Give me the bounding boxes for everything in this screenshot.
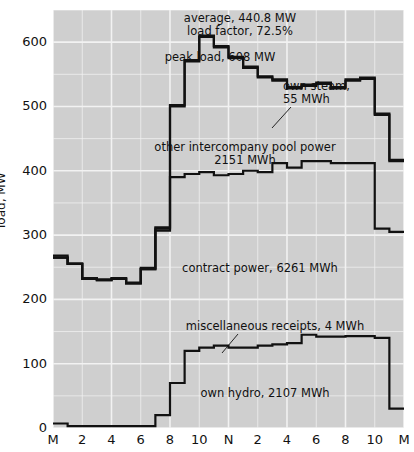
annotation-misc-receipts: miscellaneous receipts, 4 MWh xyxy=(185,320,365,333)
y-axis-tick-600: 600 xyxy=(1,35,47,48)
y-axis-tick-100: 100 xyxy=(1,357,47,370)
annotation-peak-load: peak load, 608 MW xyxy=(140,51,300,64)
x-axis-tick-0: M xyxy=(41,433,65,446)
annotation-own-hydro: own hydro, 2107 MWh xyxy=(190,387,340,400)
y-axis-tick-300: 300 xyxy=(1,228,47,241)
x-axis-tick-12: M xyxy=(392,433,414,446)
annotation-contract-power: contract power, 6261 MWh xyxy=(170,262,350,275)
y-axis-tick-500: 500 xyxy=(1,99,47,112)
x-axis-tick-9: 6 xyxy=(304,433,328,446)
x-axis-tick-6: N xyxy=(217,433,241,446)
x-axis-tick-4: 8 xyxy=(158,433,182,446)
x-axis-tick-2: 4 xyxy=(100,433,124,446)
x-axis-tick-11: 10 xyxy=(363,433,387,446)
y-axis-tick-200: 200 xyxy=(1,292,47,305)
annotation-load-factor: load factor, 72.5% xyxy=(160,25,320,38)
x-axis-tick-3: 6 xyxy=(129,433,153,446)
axis-tick-layer: 0100200300400500600M246810N246810M xyxy=(0,0,414,452)
x-axis-tick-5: 10 xyxy=(187,433,211,446)
chart-figure: 0100200300400500600M246810N246810M load,… xyxy=(0,0,414,452)
x-axis-tick-1: 2 xyxy=(70,433,94,446)
annotation-own-steam-line2: 55 MWh xyxy=(283,93,330,106)
y-axis-label: load, MW xyxy=(0,173,8,229)
x-axis-tick-8: 4 xyxy=(275,433,299,446)
x-axis-tick-7: 2 xyxy=(246,433,270,446)
annotation-pool-power-line2: 2151 MWh xyxy=(145,154,345,167)
x-axis-tick-10: 8 xyxy=(334,433,358,446)
